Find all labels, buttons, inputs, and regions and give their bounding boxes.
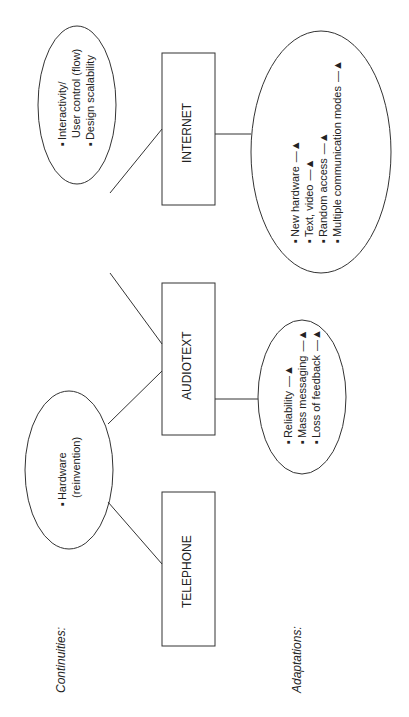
adaptation-item: New hardware—▲ — [288, 60, 302, 243]
adaptation-item: Random access—▲ — [316, 60, 330, 243]
internet-adaptations: New hardware—▲ Text, video—▲ Random acce… — [288, 60, 344, 243]
adaptation-item: Reliability—▲ — [281, 329, 295, 444]
arrow-up-icon: —▲ — [331, 60, 343, 82]
arrow-up-icon: —▲ — [289, 140, 301, 162]
adaptation-item: Mass messaging—▲ — [295, 329, 309, 444]
arrow-up-icon: —▲ — [310, 329, 322, 351]
continuity-item: (reinvention) — [69, 437, 83, 506]
adaptation-item: Text, video—▲ — [302, 60, 316, 243]
continuities-label: Continuities: — [54, 627, 68, 693]
arrow-up-icon: —▲ — [282, 365, 294, 387]
connector-hardware-audiotext — [108, 371, 162, 424]
connector-ellipse-audiotext — [110, 273, 162, 344]
continuity-item: User control (flow) — [69, 49, 83, 146]
interactivity-text: Interactivity/ User control (flow) Desig… — [55, 49, 97, 146]
continuity-item: Interactivity/ — [55, 49, 69, 146]
telephone-label: TELEPHONE — [180, 535, 194, 608]
continuity-item: Design scalability — [83, 49, 97, 146]
arrow-up-icon: —▲ — [296, 330, 308, 352]
continuity-item: Hardware — [55, 437, 69, 506]
audiotext-label: AUDIOTEXT — [180, 331, 194, 400]
adaptations-label: Adaptations: — [290, 626, 304, 693]
arrow-up-icon: —▲ — [317, 132, 329, 154]
adaptation-item: Multiple communication modes—▲ — [330, 60, 344, 243]
connector-ellipse-internet — [110, 129, 162, 193]
arrow-up-icon: —▲ — [303, 159, 315, 181]
hardware-text: Hardware (reinvention) — [55, 437, 83, 506]
adaptation-item: Loss of feedback—▲ — [309, 329, 323, 444]
internet-label: INTERNET — [180, 103, 194, 163]
audiotext-adaptations: Reliability—▲ Mass messaging—▲ Loss of f… — [281, 329, 323, 444]
connector-hardware-telephone — [108, 502, 162, 564]
